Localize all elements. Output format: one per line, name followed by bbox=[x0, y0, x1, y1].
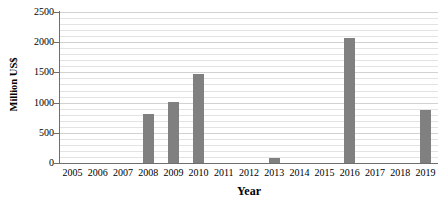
y-axis-title-text: Million US$ bbox=[9, 57, 20, 111]
x-axis-tick-labels: 2005200620072008200920102011201220132014… bbox=[60, 166, 438, 182]
x-axis-tick-label: 2007 bbox=[113, 166, 133, 180]
bar-slot bbox=[287, 12, 312, 163]
x-axis-tick-label: 2009 bbox=[163, 166, 183, 180]
x-axis-tick-label: 2014 bbox=[289, 166, 309, 180]
x-axis-tick-label: 2018 bbox=[390, 166, 410, 180]
bar-slot bbox=[388, 12, 413, 163]
bar-slot bbox=[161, 12, 186, 163]
y-axis-tick-label: 500 bbox=[39, 128, 54, 138]
bar-slot bbox=[186, 12, 211, 163]
bar-slot bbox=[413, 12, 438, 163]
bar-slot bbox=[312, 12, 337, 163]
x-axis-tick-label: 2015 bbox=[315, 166, 335, 180]
bar[interactable] bbox=[143, 114, 154, 163]
bar-slot bbox=[236, 12, 261, 163]
bar-slot bbox=[85, 12, 110, 163]
x-axis-line bbox=[59, 163, 438, 164]
bar[interactable] bbox=[420, 110, 431, 163]
bar[interactable] bbox=[344, 38, 355, 163]
bar-slot bbox=[110, 12, 135, 163]
x-axis-tick-label: 2013 bbox=[264, 166, 284, 180]
y-axis-tick-label: 1000 bbox=[34, 98, 54, 108]
x-axis-tick-label: 2010 bbox=[189, 166, 209, 180]
bar-slot bbox=[362, 12, 387, 163]
x-axis-tick-label: 2011 bbox=[214, 166, 234, 180]
bar-slot bbox=[136, 12, 161, 163]
bar-slot bbox=[262, 12, 287, 163]
y-axis-tick-labels: 05001000150020002500 bbox=[24, 12, 58, 163]
bar-slot bbox=[337, 12, 362, 163]
y-axis-tick-label: 1500 bbox=[34, 67, 54, 77]
bar[interactable] bbox=[269, 158, 280, 163]
x-axis-tick-label: 2012 bbox=[239, 166, 259, 180]
bar[interactable] bbox=[168, 102, 179, 163]
bar[interactable] bbox=[193, 74, 204, 163]
x-axis-tick-label: 2019 bbox=[415, 166, 435, 180]
x-axis-tick-label: 2017 bbox=[365, 166, 385, 180]
bar-slot bbox=[60, 12, 85, 163]
x-axis-tick-label: 2006 bbox=[88, 166, 108, 180]
y-axis-tick-label: 2500 bbox=[34, 7, 54, 17]
x-axis-tick-label: 2005 bbox=[63, 166, 83, 180]
y-axis-tick-label: 2000 bbox=[34, 37, 54, 47]
plot-area bbox=[60, 12, 438, 163]
bars-layer bbox=[60, 12, 438, 163]
bar-slot bbox=[211, 12, 236, 163]
bar-chart: Million US$ 05001000150020002500 2005200… bbox=[0, 0, 445, 208]
x-axis-tick-label: 2016 bbox=[340, 166, 360, 180]
y-axis-title: Million US$ bbox=[2, 0, 26, 168]
x-axis-title: Year bbox=[60, 184, 438, 199]
x-axis-tick-label: 2008 bbox=[138, 166, 158, 180]
